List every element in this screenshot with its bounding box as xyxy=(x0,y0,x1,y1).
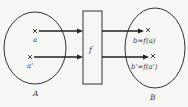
label-set-a: A xyxy=(32,89,39,98)
element-a-prime-marker xyxy=(28,55,32,59)
arrow-f-to-b xyxy=(102,29,144,34)
label-b: b=f(a) xyxy=(133,37,156,45)
label-a-prime: a' xyxy=(27,62,33,70)
label-b-prime: b'=f(a') xyxy=(131,63,158,71)
element-b-marker xyxy=(146,28,150,32)
label-a: a xyxy=(33,36,37,44)
label-f: f xyxy=(88,45,94,54)
label-set-b: B xyxy=(149,93,156,102)
element-a-marker xyxy=(33,29,37,33)
function-mapping-diagram: a a' A f b=f(a) b'=f(a') B xyxy=(0,0,188,107)
set-b-ellipse xyxy=(125,8,185,88)
element-b-prime-marker xyxy=(151,54,155,58)
arrow-a-prime-to-f xyxy=(34,55,83,60)
set-a-ellipse xyxy=(4,12,66,84)
function-box xyxy=(83,11,102,84)
